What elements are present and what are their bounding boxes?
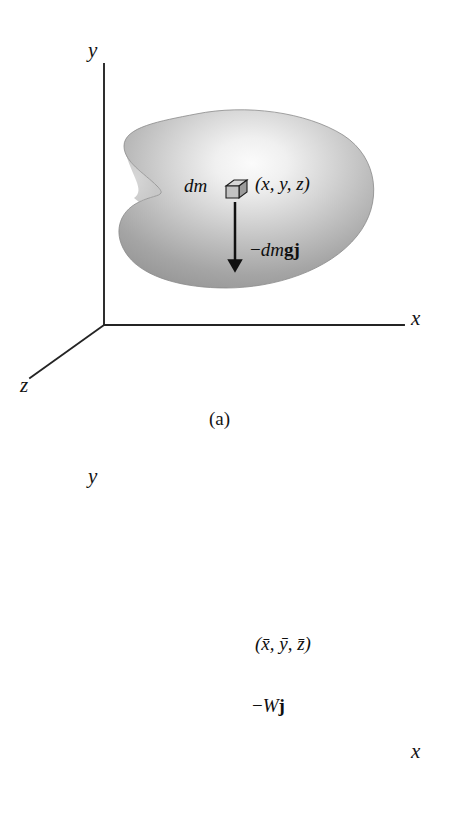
figure-a-container: y x z dm (x, y, z) −dmgj (a) — [0, 0, 449, 410]
coordinates-label-b: (x̄, ȳ, z̄) — [255, 634, 311, 653]
weight-force-label-b: −Wj — [252, 696, 285, 715]
j-unit-vector-a: j — [293, 239, 299, 260]
figure-b-drawing — [0, 410, 449, 819]
weight-force-label-a: −dmgj — [250, 240, 300, 259]
mass-element-label: dm — [184, 176, 207, 195]
figure-a-drawing — [0, 0, 449, 410]
z-axis-line-a — [30, 325, 104, 378]
minus-sign-a: − — [250, 239, 261, 260]
figure-b-container: y x (x̄, ȳ, z̄) −Wj — [0, 410, 449, 819]
dm-term-a: dm — [261, 239, 284, 260]
y-axis-label-b: y — [88, 466, 97, 487]
x-axis-label-a: x — [411, 308, 420, 329]
j-unit-vector-b: j — [279, 695, 285, 716]
rigid-body-shape-a — [119, 110, 374, 288]
coordinates-label-a: (x, y, z) — [255, 174, 310, 193]
x-axis-label-b: x — [411, 741, 420, 762]
minus-sign-b: − — [252, 695, 263, 716]
W-term-b: W — [263, 695, 279, 716]
y-axis-label-a: y — [88, 40, 97, 61]
z-axis-label-a: z — [20, 375, 28, 396]
